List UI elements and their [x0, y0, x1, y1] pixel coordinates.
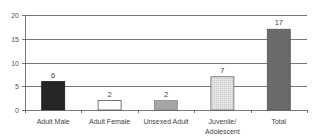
- x-category-label: Adult Female: [89, 118, 130, 125]
- y-tick-label: 0: [15, 107, 19, 114]
- x-category-label: Unsexed Adult: [143, 118, 188, 125]
- bar: [267, 29, 290, 110]
- x-category-label: Adult Male: [37, 118, 70, 125]
- x-category-label: Total: [271, 118, 286, 125]
- data-label: 2: [108, 90, 112, 99]
- x-category-label: Juvenile/: [209, 118, 237, 125]
- y-tick-label: 20: [11, 12, 19, 19]
- y-axis-ticks: 05101520: [11, 12, 25, 114]
- data-label: 17: [275, 18, 283, 27]
- x-axis-labels: Adult MaleAdult FemaleUnsexed AdultJuven…: [37, 118, 287, 135]
- bar: [98, 101, 121, 111]
- data-label: 6: [51, 71, 55, 80]
- bar: [155, 101, 178, 111]
- data-label: 2: [164, 90, 168, 99]
- bar-chart: 05101520 622717 Adult MaleAdult FemaleUn…: [0, 0, 315, 140]
- gridlines: [25, 16, 307, 87]
- bar: [42, 82, 65, 111]
- bars: 622717: [42, 18, 291, 110]
- data-label: 7: [220, 66, 224, 75]
- y-tick-label: 10: [11, 60, 19, 67]
- x-category-label: Adolescent: [205, 128, 240, 135]
- y-tick-label: 5: [15, 83, 19, 90]
- y-tick-label: 15: [11, 36, 19, 43]
- bar: [211, 77, 234, 110]
